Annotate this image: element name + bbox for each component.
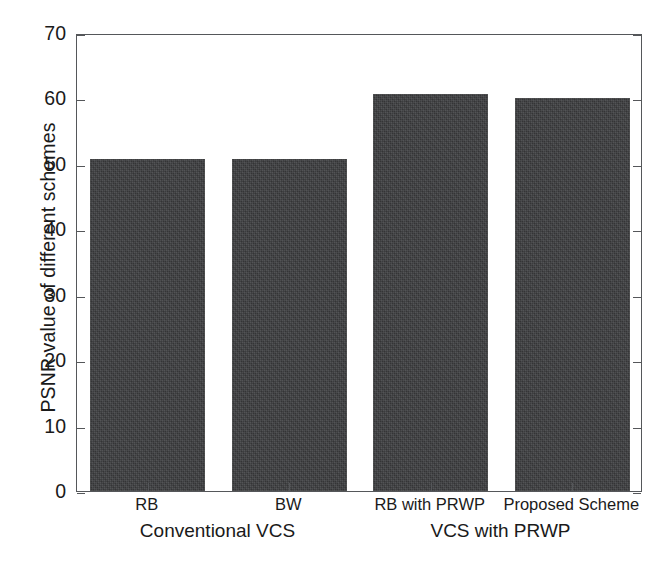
y-axis-tick-right (633, 231, 641, 232)
y-axis-tick (77, 231, 85, 232)
x-axis-tick-label: BW (275, 496, 302, 513)
x-axis-group-label: VCS with PRWP (430, 521, 570, 540)
bar-chart-figure: PSNR value of different schemes 01020304… (0, 0, 663, 570)
y-axis-tick-label: 0 (6, 482, 66, 502)
y-axis-tick-right (633, 166, 641, 167)
y-axis-tick (77, 166, 85, 167)
y-axis-tick (77, 428, 85, 429)
y-axis-title: PSNR value of different schemes (37, 68, 60, 468)
y-axis-tick-right (633, 35, 641, 36)
x-axis-tick (289, 483, 290, 491)
y-axis-tick-right (633, 493, 641, 494)
y-axis-tick-right (633, 100, 641, 101)
x-axis-group-label: Conventional VCS (140, 521, 295, 540)
y-axis-tick (77, 362, 85, 363)
y-axis-tick (77, 100, 85, 101)
y-axis-tick (77, 297, 85, 298)
y-axis-tick-label: 30 (6, 286, 66, 306)
y-axis-tick-label: 50 (6, 155, 66, 175)
x-axis-tick-label: RB (135, 496, 158, 513)
y-axis-tick-label: 20 (6, 351, 66, 371)
y-axis-tick-label: 60 (6, 90, 66, 110)
x-axis-tick-label: Proposed Scheme (503, 496, 639, 513)
bar (373, 94, 488, 491)
y-axis-tick (77, 35, 85, 36)
y-axis-tick-label: 40 (6, 221, 66, 241)
plot-area (76, 34, 642, 492)
y-axis-tick-right (633, 428, 641, 429)
y-axis-tick-right (633, 297, 641, 298)
y-axis-tick (77, 493, 85, 494)
bar (515, 98, 630, 491)
y-axis-tick-label: 10 (6, 417, 66, 437)
y-axis-tick-right (633, 362, 641, 363)
bar (232, 159, 347, 491)
x-axis-tick (431, 483, 432, 491)
x-axis-tick (572, 483, 573, 491)
x-axis-tick (148, 483, 149, 491)
y-axis-tick-label: 70 (6, 24, 66, 44)
x-axis-tick-label: RB with PRWP (374, 496, 485, 513)
bar (90, 159, 205, 491)
